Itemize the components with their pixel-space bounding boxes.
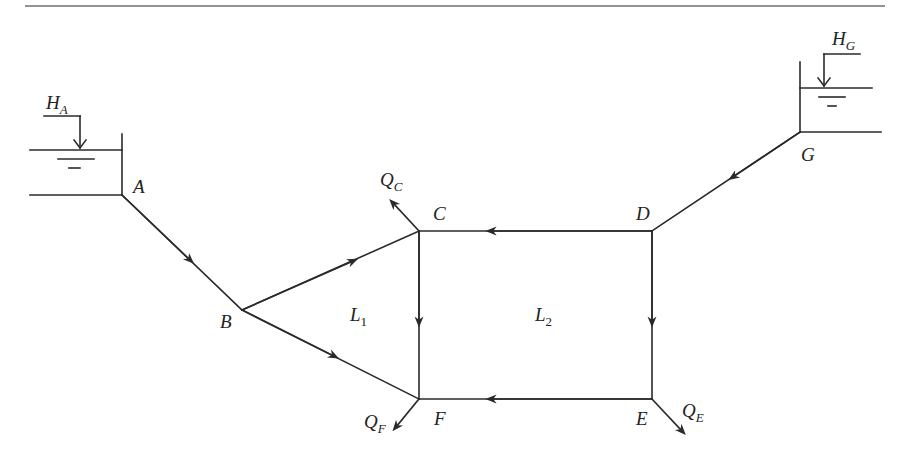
node-a-label: A bbox=[131, 176, 145, 197]
pipes bbox=[122, 132, 800, 399]
outflow-c-label: QC bbox=[380, 169, 403, 194]
outflow-c-arrow bbox=[393, 203, 419, 231]
loop-1-label: L1 bbox=[349, 304, 367, 329]
loop-2-label: L2 bbox=[534, 304, 552, 329]
outflow-f-arrow bbox=[396, 399, 419, 427]
head-a-pointer bbox=[44, 116, 86, 148]
head-g-pointer bbox=[818, 54, 860, 86]
pipe-network-diagram: HA HG bbox=[0, 0, 907, 460]
node-g-label: G bbox=[801, 144, 815, 165]
outflow-f-label: QF bbox=[364, 411, 387, 436]
node-b-label: B bbox=[220, 311, 232, 332]
head-a-label: HA bbox=[45, 92, 68, 117]
outflow-e-label: QE bbox=[682, 400, 704, 425]
node-labels: A B C D E F G bbox=[131, 144, 815, 429]
node-c-label: C bbox=[433, 203, 446, 224]
reservoir-g: HG bbox=[800, 28, 881, 132]
head-g-label: HG bbox=[831, 28, 856, 53]
node-f-label: F bbox=[433, 408, 446, 429]
loop-labels: L1 L2 bbox=[349, 304, 552, 329]
node-e-label: E bbox=[635, 408, 648, 429]
reservoir-a: HA bbox=[30, 92, 122, 195]
node-d-label: D bbox=[635, 203, 650, 224]
outflow-e-arrow bbox=[652, 399, 682, 431]
